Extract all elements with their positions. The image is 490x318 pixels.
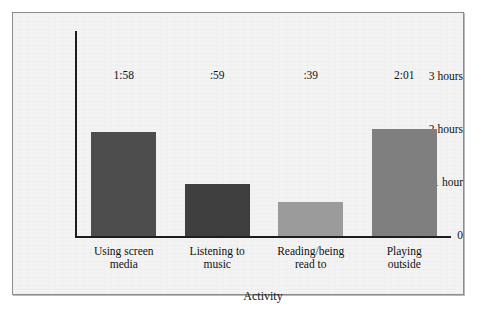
bar-value-label-reading-being-read-to: :39 bbox=[271, 70, 351, 82]
x-axis-title: Activity bbox=[75, 290, 451, 302]
x-category-label-playing-outside: Playing outside bbox=[349, 245, 459, 271]
y-axis-line bbox=[75, 31, 77, 237]
bar-reading-being-read-to[interactable] bbox=[278, 202, 343, 236]
bar-value-label-playing-outside: 2:01 bbox=[364, 70, 444, 82]
bar-value-label-using-screen-media: 1:58 bbox=[84, 70, 164, 82]
plot-area: 3 hours 2 hours 1 hour 0 1:58 :59 :39 2:… bbox=[13, 13, 463, 296]
chart-screenshot: 3 hours 2 hours 1 hour 0 1:58 :59 :39 2:… bbox=[0, 0, 490, 318]
bar-using-screen-media[interactable] bbox=[91, 132, 156, 236]
figure-frame: 3 hours 2 hours 1 hour 0 1:58 :59 :39 2:… bbox=[12, 12, 464, 295]
bar-listening-to-music[interactable] bbox=[185, 184, 250, 236]
bar-playing-outside[interactable] bbox=[372, 129, 437, 236]
bar-value-label-listening-to-music: :59 bbox=[177, 70, 257, 82]
x-axis-line bbox=[75, 236, 451, 238]
